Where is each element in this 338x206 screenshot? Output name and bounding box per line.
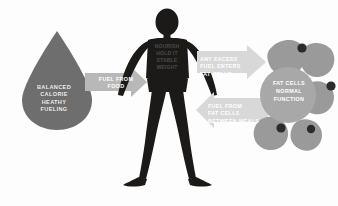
fat-cell-nucleus [307,125,315,133]
human-body-silhouette [118,9,217,187]
diagram-vector-layer [0,0,338,206]
balanced-calorie-droplet [22,31,92,130]
fat-cell-cluster [254,40,336,151]
fat-cell-nucleus [326,81,335,90]
arrow-fuel-from-food [85,67,147,97]
arrow-fuel-between-meals [196,92,268,128]
fat-cell-nucleus [297,43,306,52]
fat-cell-nucleus [276,123,285,132]
diagram-canvas: BALANCED CALORIE HEATHY FUELING FUEL FRO… [0,0,338,206]
